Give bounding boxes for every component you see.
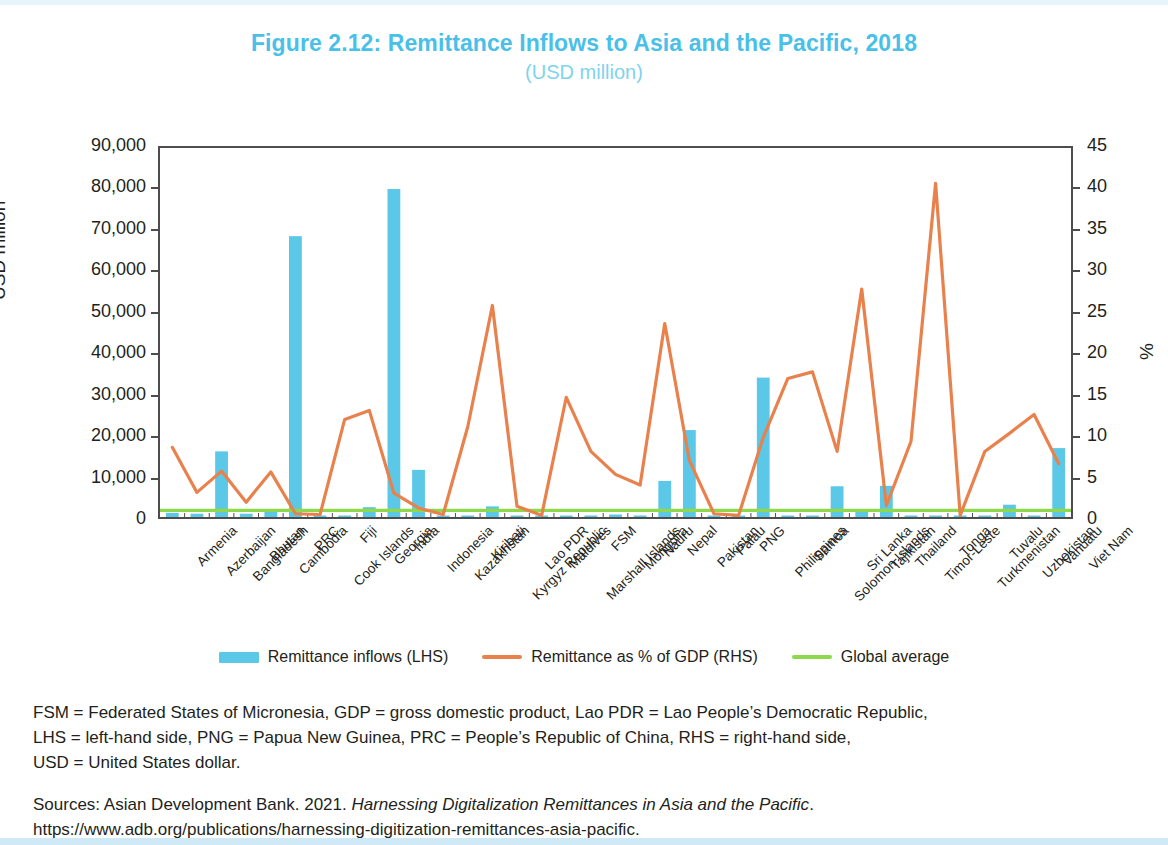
y-tick-mark-right-3 (1073, 395, 1080, 397)
bar-armenia (166, 513, 179, 517)
x-label-fiji: Fiji (358, 523, 381, 546)
bar-tonga (929, 516, 942, 517)
y-tick-mark-left-7 (151, 229, 158, 231)
y-tick-left-0: 0 (36, 508, 146, 529)
y-tick-mark-left-3 (151, 395, 158, 397)
y-tick-left-7: 70,000 (36, 218, 146, 239)
top-rule (0, 0, 1168, 5)
y-tick-mark-left-4 (151, 353, 158, 355)
legend-swatch-icon-0 (219, 652, 259, 663)
y-tick-mark-left-2 (151, 436, 158, 438)
y-tick-mark-right-6 (1073, 270, 1080, 272)
chart-legend: Remittance inflows (LHS)Remittance as % … (0, 648, 1168, 666)
abbrev-line-2: LHS = left-hand side, PNG = Papua New Gu… (33, 725, 1143, 750)
bar-bangladesh (215, 451, 228, 517)
y-tick-left-2: 20,000 (36, 425, 146, 446)
sources-prefix: Sources: Asian Development Bank. 2021. (33, 795, 351, 814)
bar-fsm (584, 516, 597, 517)
figure-title: Figure 2.12: Remittance Inflows to Asia … (0, 28, 1168, 58)
y-tick-right-3: 15 (1087, 384, 1147, 405)
y-tick-left-8: 80,000 (36, 176, 146, 197)
bar-india (388, 189, 401, 517)
x-axis-labels: ArmeniaAzerbaijanBangladeshBhutanCambodi… (158, 521, 1073, 636)
abbrev-line-1: FSM = Federated States of Micronesia, GD… (33, 700, 1143, 725)
y-tick-right-8: 40 (1087, 176, 1147, 197)
y-tick-mark-right-7 (1073, 229, 1080, 231)
bar-nauru (634, 516, 647, 517)
title-block: Figure 2.12: Remittance Inflows to Asia … (0, 28, 1168, 86)
y-tick-right-7: 35 (1087, 218, 1147, 239)
figure-subtitle: (USD million) (0, 58, 1168, 86)
legend-swatch-icon-1 (482, 655, 522, 659)
bar-kiribati (461, 516, 474, 517)
remittance-pct-gdp-line (172, 183, 1058, 515)
y-tick-left-3: 30,000 (36, 384, 146, 405)
y-tick-mark-left-5 (151, 312, 158, 314)
y-tick-mark-right-4 (1073, 353, 1080, 355)
bar-bhutan (240, 514, 253, 517)
bar-prc (289, 236, 302, 517)
y-tick-left-5: 50,000 (36, 301, 146, 322)
sources-title: Harnessing Digitalization Remittances in… (351, 795, 809, 814)
plot-area (158, 146, 1073, 519)
y-tick-left-4: 40,000 (36, 342, 146, 363)
bar-georgia (363, 507, 376, 517)
figure-notes: FSM = Federated States of Micronesia, GD… (33, 700, 1143, 842)
bar-marshall-islands (560, 516, 573, 517)
y-tick-right-1: 5 (1087, 467, 1147, 488)
bottom-rule (0, 838, 1168, 845)
legend-item-2[interactable]: Global average (792, 648, 950, 666)
bar-azerbaijan (191, 514, 204, 517)
bar-samoa (781, 516, 794, 517)
y-tick-right-2: 10 (1087, 425, 1147, 446)
y-tick-mark-right-5 (1073, 312, 1080, 314)
legend-label-0: Remittance inflows (LHS) (268, 648, 449, 666)
bar-viet-nam (1052, 448, 1065, 517)
legend-label-2: Global average (841, 648, 950, 666)
bar-fiji (338, 516, 351, 517)
y-tick-right-9: 45 (1087, 135, 1147, 156)
bar-mongolia (609, 515, 622, 517)
y-tick-mark-left-8 (151, 187, 158, 189)
y-tick-right-4: 20 (1087, 342, 1147, 363)
y-tick-right-5: 25 (1087, 301, 1147, 322)
y-tick-mark-right-2 (1073, 436, 1080, 438)
legend-item-1[interactable]: Remittance as % of GDP (RHS) (482, 648, 757, 666)
bar-vanuatu (1028, 516, 1041, 517)
y-tick-right-6: 30 (1087, 259, 1147, 280)
chart-svg (160, 148, 1071, 517)
y-axis-title-left: USD million (0, 201, 10, 300)
bar-sri-lanka (831, 486, 844, 517)
bar-palau (708, 516, 721, 517)
legend-label-1: Remittance as % of GDP (RHS) (531, 648, 757, 666)
bar-lao-pdr (511, 516, 524, 517)
y-tick-left-1: 10,000 (36, 467, 146, 488)
legend-item-0[interactable]: Remittance inflows (LHS) (219, 648, 449, 666)
legend-swatch-icon-2 (792, 655, 832, 659)
sources-line: Sources: Asian Development Bank. 2021. H… (33, 792, 1143, 842)
y-tick-mark-right-1 (1073, 478, 1080, 480)
y-tick-mark-right-8 (1073, 187, 1080, 189)
bar-solomon-islands (806, 516, 819, 517)
y-tick-mark-left-6 (151, 270, 158, 272)
y-tick-mark-left-1 (151, 478, 158, 480)
figure-container: Figure 2.12: Remittance Inflows to Asia … (0, 0, 1168, 845)
bar-tuvalu (978, 516, 991, 517)
abbrev-line-3: USD = United States dollar. (33, 750, 1143, 775)
x-label-fsm: FSM (608, 523, 639, 554)
bar-timor-leste (905, 516, 918, 517)
y-tick-left-6: 60,000 (36, 259, 146, 280)
y-tick-left-9: 90,000 (36, 135, 146, 156)
